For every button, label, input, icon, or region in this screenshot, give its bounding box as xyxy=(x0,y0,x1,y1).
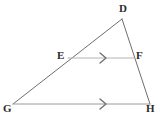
vertex-label-G: G xyxy=(3,103,12,114)
vertex-label-F: F xyxy=(136,50,143,61)
vertex-label-D: D xyxy=(119,3,127,14)
vertex-label-H: H xyxy=(146,103,155,114)
segment-DG xyxy=(13,19,122,104)
segment-DH xyxy=(122,19,150,104)
geometry-diagram: D E F G H xyxy=(0,0,160,123)
triangle-figure-svg xyxy=(0,0,160,123)
vertex-label-E: E xyxy=(57,50,64,61)
